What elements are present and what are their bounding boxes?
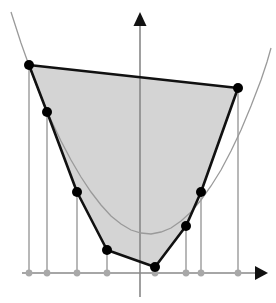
hull-fill-group <box>29 65 238 267</box>
x-axis-dot <box>74 270 81 277</box>
x-axis-dot <box>104 270 111 277</box>
sample-point-dot <box>72 187 82 197</box>
sample-point-dot <box>233 83 243 93</box>
sample-point-dot <box>150 262 160 272</box>
x-axis-dot <box>26 270 33 277</box>
sample-point-dot <box>196 187 206 197</box>
x-axis-dot <box>198 270 205 277</box>
sample-point-dot <box>24 60 34 70</box>
parabola-convex-hull-diagram <box>0 0 276 303</box>
x-axis-dot <box>235 270 242 277</box>
x-axis-dot <box>44 270 51 277</box>
x-axis-arrow-icon <box>255 266 268 280</box>
x-axis-dot <box>183 270 190 277</box>
sample-point-dot <box>102 245 112 255</box>
figure-canvas <box>0 0 276 303</box>
y-axis-arrow-icon <box>134 12 147 26</box>
sample-point-dot <box>42 107 52 117</box>
sample-point-dot <box>181 221 191 231</box>
convex-hull-shaded-region <box>29 65 238 267</box>
